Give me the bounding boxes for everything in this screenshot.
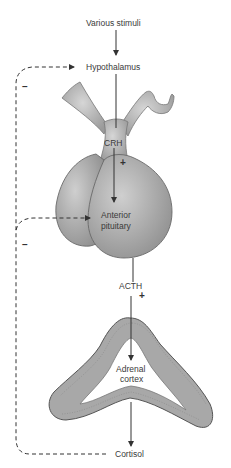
acth-plus-sign: + xyxy=(139,291,145,301)
anterior-pituitary-label-1: Anterior xyxy=(101,210,131,220)
pituitary-gland xyxy=(56,82,174,258)
crh-plus-sign: + xyxy=(120,158,126,168)
anterior-pituitary-label-2: pituitary xyxy=(101,221,131,231)
hypothalamus-label: Hypothalamus xyxy=(86,62,140,72)
adrenal-cortex-label-1: Adrenal xyxy=(116,364,145,374)
adrenal-cortex-label-2: cortex xyxy=(120,374,143,384)
stimuli-label: Various stimuli xyxy=(86,18,141,28)
crh-label: CRH xyxy=(104,138,122,148)
hypothalamus-minus-sign: – xyxy=(22,82,28,92)
cortisol-label: Cortisol xyxy=(115,449,144,459)
pituitary-minus-sign: – xyxy=(22,240,28,250)
